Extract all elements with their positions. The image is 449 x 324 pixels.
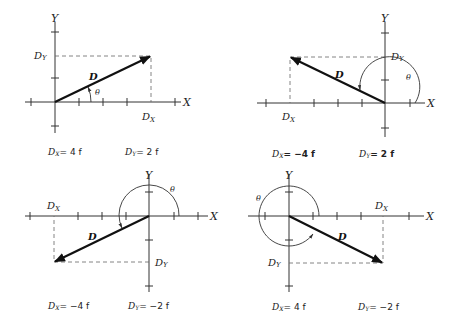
angle-theta-arc bbox=[88, 87, 91, 102]
dy-equation: DY= −2 f bbox=[127, 301, 170, 311]
dx-axis-label: DX bbox=[141, 111, 156, 124]
vector-d bbox=[55, 216, 149, 262]
x-axis-label: X bbox=[426, 97, 436, 110]
dx-equation: DX= 4 f bbox=[47, 147, 82, 157]
vector-d bbox=[55, 57, 150, 103]
y-axis-label: Y bbox=[285, 169, 294, 182]
panel-q3: X Y D θ DY DX DX= −4 f DY= −2 f bbox=[25, 169, 219, 311]
dx-equation: DX= −4 f bbox=[271, 149, 315, 159]
x-axis-label: X bbox=[209, 210, 219, 223]
y-axis-label: Y bbox=[381, 12, 390, 25]
y-axis-label: Y bbox=[51, 12, 60, 25]
panel-q1: X Y D θ DY DX DX= 4 f DY= 2 f bbox=[25, 12, 192, 157]
theta-label: θ bbox=[256, 194, 261, 203]
dy-axis-label: DY bbox=[267, 257, 282, 269]
dx-equation: DX= −4 f bbox=[47, 301, 90, 311]
vector-label: D bbox=[337, 231, 347, 242]
dy-axis-label: DY bbox=[390, 51, 405, 63]
dy-equation: DY= 2 f bbox=[124, 147, 159, 157]
dx-axis-label: DX bbox=[374, 200, 389, 213]
vector-label: D bbox=[334, 69, 344, 80]
dx-axis-label: DX bbox=[46, 200, 61, 213]
dy-equation: DY= 2 f bbox=[358, 149, 394, 159]
panel-q4: X Y D θ DY DX DX= 4 f DY= −2 f bbox=[248, 169, 435, 312]
vector-d bbox=[291, 58, 385, 104]
vector-label: D bbox=[87, 231, 97, 242]
theta-label: θ bbox=[170, 185, 175, 194]
vector-components-figure: X Y D θ DY DX DX= 4 f DY= 2 f X Y D θ DY bbox=[0, 0, 449, 324]
dy-axis-label: DY bbox=[33, 50, 48, 62]
x-axis-label: X bbox=[182, 96, 192, 109]
y-axis-label: Y bbox=[145, 169, 154, 182]
theta-label: θ bbox=[406, 73, 411, 82]
vector-d bbox=[289, 216, 382, 263]
panel-q2: X Y D θ DY DX DX= −4 f DY= 2 f bbox=[257, 12, 436, 159]
dy-equation: DY= −2 f bbox=[357, 302, 400, 312]
vector-label: D bbox=[88, 71, 98, 82]
x-axis-label: X bbox=[425, 210, 435, 223]
dx-axis-label: DX bbox=[281, 111, 296, 124]
theta-label: θ bbox=[95, 88, 100, 97]
dx-equation: DX= 4 f bbox=[271, 302, 306, 312]
dy-axis-label: DY bbox=[154, 257, 169, 269]
